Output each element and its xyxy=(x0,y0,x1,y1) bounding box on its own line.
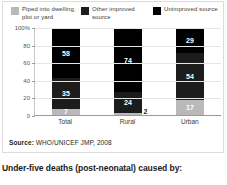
legend-item-piped: Piped into dwelling, plot or yard xyxy=(11,6,77,21)
y-axis-tickmark xyxy=(32,81,35,82)
figure-caption: Under-five deaths (post-neonatal) caused… xyxy=(2,163,225,174)
bar-segment[interactable]: 58 xyxy=(52,28,81,78)
gridline xyxy=(35,46,221,47)
stacked-bar[interactable]: 22474 xyxy=(114,28,143,115)
y-axis-tick-label: 60 xyxy=(23,60,30,66)
bar-group[interactable]: 175429 xyxy=(176,28,205,115)
legend-label-unimproved: Unimproved source xyxy=(164,6,218,14)
legend-label-other-improved: Other improved source xyxy=(92,6,147,21)
stacked-bar[interactable]: 175429 xyxy=(176,28,205,115)
y-axis-tick-label: 100% xyxy=(15,25,30,31)
bar-segment[interactable]: 17 xyxy=(176,100,205,115)
legend-swatch-icon-unimproved xyxy=(153,7,161,15)
y-axis-tick-label: 0 xyxy=(27,113,30,119)
y-axis-tickmark xyxy=(32,116,35,117)
x-axis-label: Rural xyxy=(96,118,158,125)
y-axis-tickmark xyxy=(32,46,35,47)
bar-segment[interactable]: 24 xyxy=(114,92,143,113)
source-text: WHO/UNICEF JMP, 2008 xyxy=(36,139,112,146)
bar-segment[interactable]: 2 xyxy=(114,113,143,115)
y-axis-tickmark xyxy=(32,98,35,99)
bar-segment-value: 35 xyxy=(62,90,70,97)
bar-segment[interactable]: 35 xyxy=(52,78,81,108)
bar-segment-value: 2 xyxy=(143,108,147,115)
figure-panel: Piped into dwelling, plot or yard Other … xyxy=(2,1,224,153)
bar-segment-value: 7 xyxy=(64,108,68,115)
bar-segment[interactable]: 74 xyxy=(114,28,143,92)
y-axis-tick-label: 80 xyxy=(23,43,30,49)
bar-segment-value: 17 xyxy=(186,104,194,111)
y-axis-tick-label: 40 xyxy=(23,78,30,84)
gridline xyxy=(35,81,221,82)
x-axis-label: Urban xyxy=(159,118,221,125)
plot-area: 7355822474175429 xyxy=(34,28,221,116)
bar-group[interactable]: 73558 xyxy=(52,28,81,115)
x-axis-labels: TotalRuralUrban xyxy=(34,118,221,130)
legend-item-other-improved: Other improved source xyxy=(81,6,147,21)
bar-segment[interactable]: 7 xyxy=(52,109,81,115)
gridline xyxy=(35,98,221,99)
gridline xyxy=(35,28,221,29)
legend-swatch-icon-piped xyxy=(11,7,19,15)
bar-segment[interactable]: 54 xyxy=(176,53,205,100)
bar-segment[interactable]: 29 xyxy=(176,28,205,53)
stacked-bar[interactable]: 73558 xyxy=(52,28,81,115)
gridline xyxy=(35,63,221,64)
bar-series-container: 7355822474175429 xyxy=(35,28,221,115)
bar-segment-value: 24 xyxy=(124,99,132,106)
bar-segment-value: 54 xyxy=(186,73,194,80)
source-note: Source: WHO/UNICEF JMP, 2008 xyxy=(9,139,112,146)
source-prefix: Source: xyxy=(9,139,34,146)
legend-item-unimproved: Unimproved source xyxy=(153,6,223,15)
bar-group[interactable]: 22474 xyxy=(114,28,143,115)
chart-legend: Piped into dwelling, plot or yard Other … xyxy=(3,4,225,28)
y-axis: 100%806040200 xyxy=(7,28,33,116)
y-axis-tickmark xyxy=(32,63,35,64)
legend-swatch-icon-other-improved xyxy=(81,7,89,15)
bar-segment-value: 58 xyxy=(62,50,70,57)
legend-label-piped: Piped into dwelling, plot or yard xyxy=(22,6,77,21)
x-axis-label: Total xyxy=(34,118,96,125)
chart-plot: 100%806040200 7355822474175429 TotalRura… xyxy=(3,28,225,131)
bar-segment-value: 29 xyxy=(186,37,194,44)
y-axis-tickmark xyxy=(32,28,35,29)
y-axis-tick-label: 20 xyxy=(23,95,30,101)
